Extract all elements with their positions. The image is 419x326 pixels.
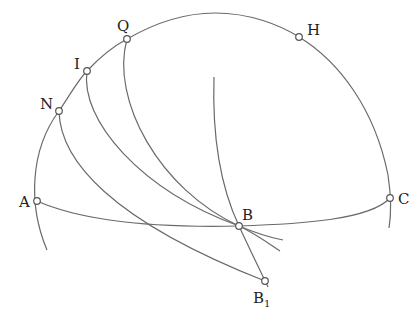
label-h: H bbox=[307, 21, 320, 39]
outer-arc bbox=[35, 13, 391, 250]
point-c bbox=[387, 195, 394, 202]
label-b1: B1 bbox=[253, 289, 270, 309]
arc-n-b1 bbox=[59, 111, 265, 281]
point-a bbox=[34, 198, 41, 205]
arc-i-b bbox=[86, 71, 280, 251]
label-q: Q bbox=[117, 17, 129, 35]
label-n: N bbox=[40, 95, 53, 113]
label-a: A bbox=[18, 193, 30, 211]
point-i bbox=[84, 68, 91, 75]
point-q bbox=[124, 36, 131, 43]
label-i: I bbox=[74, 55, 80, 73]
geometry-diagram: Q I N H A B C B1 bbox=[0, 0, 419, 326]
arc-q-b bbox=[124, 39, 283, 240]
label-c: C bbox=[398, 190, 409, 208]
point-n bbox=[56, 108, 63, 115]
label-b1-main: B bbox=[253, 289, 264, 307]
label-b: B bbox=[242, 206, 253, 224]
point-h bbox=[296, 34, 303, 41]
point-b1 bbox=[262, 278, 269, 285]
arc-through-b bbox=[214, 77, 268, 287]
label-b1-subscript: 1 bbox=[264, 298, 270, 309]
